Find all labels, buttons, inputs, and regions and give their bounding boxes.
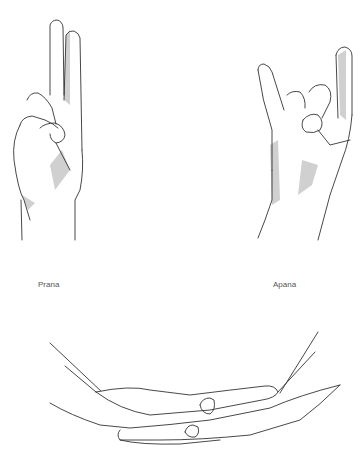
resting-hands-illustration	[0, 0, 363, 466]
prana-label: Prana	[38, 280, 59, 289]
apana-label: Apana	[273, 280, 296, 289]
